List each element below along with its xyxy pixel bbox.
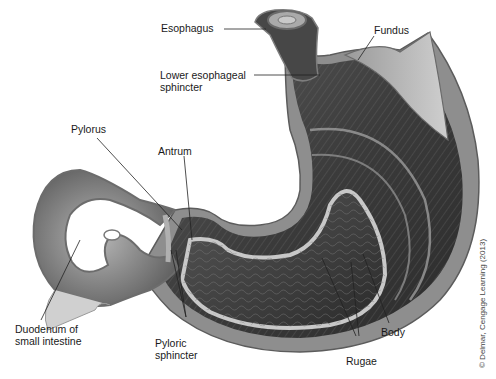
copyright-notice: © Delmar, Cengage Learning (2013) bbox=[478, 239, 487, 368]
label-lower-esophageal-sphincter: Lower esophageal sphincter bbox=[160, 69, 246, 93]
stomach-diagram: Esophagus Fundus Lower esophageal sphinc… bbox=[0, 0, 496, 379]
label-pyloric-sphincter: Pyloric sphincter bbox=[155, 337, 198, 361]
label-fundus: Fundus bbox=[374, 24, 409, 36]
label-pylorus: Pylorus bbox=[71, 123, 106, 135]
pyloric-fold bbox=[104, 230, 120, 240]
label-body: Body bbox=[381, 326, 405, 338]
label-duodenum: Duodenum of small intestine bbox=[15, 323, 82, 347]
label-antrum: Antrum bbox=[158, 145, 192, 157]
label-esophagus: Esophagus bbox=[161, 22, 214, 34]
label-rugae: Rugae bbox=[346, 355, 377, 367]
